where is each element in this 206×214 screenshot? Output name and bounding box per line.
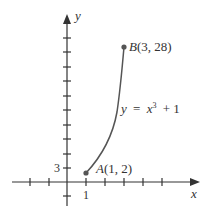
y-tick-label-3: 3 bbox=[54, 161, 60, 175]
diagram-canvas: y x 1 3 A(1, 2) B(3, 28) y = x3 + 1 bbox=[0, 0, 206, 214]
cubic-curve bbox=[86, 47, 124, 173]
equation-rest: + 1 bbox=[163, 101, 180, 116]
curve-equation-label: y = x3 + 1 bbox=[119, 96, 180, 116]
equation-equals: = bbox=[133, 101, 140, 116]
equation-exponent: 3 bbox=[152, 101, 156, 110]
point-a-marker bbox=[83, 170, 88, 175]
x-axis-label: x bbox=[190, 186, 197, 201]
point-a-name: A bbox=[95, 161, 104, 176]
x-tick-label-1: 1 bbox=[83, 188, 89, 202]
point-b-label: B(3, 28) bbox=[129, 39, 172, 54]
point-a-label: A(1, 2) bbox=[95, 161, 132, 176]
y-axis bbox=[63, 14, 71, 206]
curve-diagram: y x 1 3 A(1, 2) B(3, 28) y = x3 + 1 bbox=[0, 0, 206, 214]
x-axis-arrow-icon bbox=[190, 178, 200, 186]
x-axis bbox=[12, 178, 200, 186]
point-b-coords: (3, 28) bbox=[137, 39, 172, 54]
y-axis-arrow-icon bbox=[63, 14, 71, 24]
y-axis-label: y bbox=[73, 8, 81, 23]
point-a-coords: (1, 2) bbox=[104, 161, 132, 176]
svg-text:B(3, 28): B(3, 28) bbox=[129, 39, 172, 54]
equation-lhs: y bbox=[119, 101, 127, 116]
svg-text:A(1, 2): A(1, 2) bbox=[95, 161, 132, 176]
point-b-name: B bbox=[129, 39, 137, 54]
svg-text:y = x3: y = x3 + 1 bbox=[119, 96, 180, 116]
point-b-marker bbox=[121, 44, 126, 49]
